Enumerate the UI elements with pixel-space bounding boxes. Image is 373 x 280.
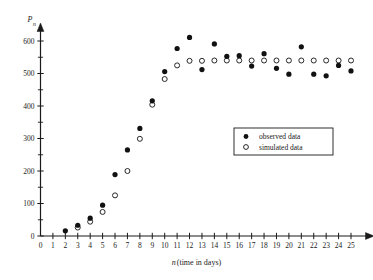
data-point-simulated <box>324 58 329 63</box>
data-point-simulated <box>199 58 204 63</box>
data-point-simulated <box>336 58 341 63</box>
data-point-observed <box>137 126 142 131</box>
data-point-observed <box>75 223 80 228</box>
x-tick-label: 25 <box>347 241 355 250</box>
x-tick-label: 6 <box>113 241 117 250</box>
x-tick-label: 17 <box>248 241 256 250</box>
x-tick-label: 9 <box>150 241 154 250</box>
x-axis-caption-variable: n <box>172 258 176 267</box>
chart-legend: observed datasimulated data <box>234 128 333 155</box>
y-tick-label: 400 <box>23 102 35 111</box>
y-axis-arrowhead <box>37 23 44 32</box>
y-tick-label: 300 <box>23 134 35 143</box>
y-tick-label: 200 <box>23 167 35 176</box>
x-tick-label: 18 <box>260 241 268 250</box>
data-point-observed <box>274 66 279 71</box>
x-axis-caption-text: (time in days) <box>177 258 222 267</box>
x-tick-label: 4 <box>88 241 92 250</box>
x-tick-label: 3 <box>76 241 80 250</box>
data-point-simulated <box>286 58 291 63</box>
data-point-simulated <box>274 58 279 63</box>
y-tick-label: 100 <box>23 199 35 208</box>
data-point-simulated <box>311 58 316 63</box>
data-point-simulated <box>237 58 242 63</box>
x-tick-label: 1 <box>51 241 55 250</box>
data-point-observed <box>224 54 229 59</box>
data-point-simulated <box>113 193 118 198</box>
x-tick-label: 24 <box>335 241 343 250</box>
y-tick-label: 0 <box>31 232 35 241</box>
data-point-observed <box>63 228 68 233</box>
data-point-simulated <box>125 169 130 174</box>
scatter-plot: 0100200300400500600Pn0123456789101112131… <box>0 0 373 280</box>
data-point-observed <box>175 46 180 51</box>
x-tick-label: 19 <box>273 241 281 250</box>
x-tick-label: 14 <box>211 241 219 250</box>
data-point-observed <box>237 53 242 58</box>
x-tick-label: 22 <box>310 241 318 250</box>
data-point-observed <box>100 203 105 208</box>
data-point-observed <box>249 63 254 68</box>
data-point-simulated <box>299 58 304 63</box>
data-point-simulated <box>249 58 254 63</box>
x-tick-label: 21 <box>298 241 306 250</box>
legend-label: observed data <box>259 132 301 141</box>
data-point-observed <box>336 63 341 68</box>
data-point-observed <box>212 41 217 46</box>
data-point-observed <box>187 35 192 40</box>
data-point-simulated <box>175 63 180 68</box>
data-point-observed <box>112 172 117 177</box>
data-point-observed <box>261 51 266 56</box>
data-point-observed <box>324 73 329 78</box>
legend-marker-simulated <box>244 145 249 150</box>
data-point-simulated <box>162 77 167 82</box>
x-tick-label: 7 <box>126 241 130 250</box>
y-tick-label: 600 <box>23 37 35 46</box>
x-tick-label: 13 <box>198 241 206 250</box>
data-point-observed <box>286 72 291 77</box>
data-point-observed <box>299 44 304 49</box>
x-tick-label: 8 <box>138 241 142 250</box>
x-tick-label: 16 <box>235 241 243 250</box>
x-tick-label: 11 <box>174 241 181 250</box>
legend-label: simulated data <box>259 143 303 152</box>
x-tick-label: 20 <box>285 241 293 250</box>
x-tick-label: 10 <box>161 241 169 250</box>
x-axis-arrowhead <box>366 233 373 240</box>
data-point-observed <box>348 68 353 73</box>
chart-figure: 0100200300400500600Pn0123456789101112131… <box>0 0 373 280</box>
x-tick-label: 5 <box>101 241 105 250</box>
y-tick-label: 500 <box>23 69 35 78</box>
data-point-simulated <box>262 58 267 63</box>
data-point-observed <box>199 67 204 72</box>
data-point-observed <box>150 98 155 103</box>
x-tick-label: 15 <box>223 241 231 250</box>
data-point-simulated <box>187 58 192 63</box>
x-tick-label: 23 <box>322 241 330 250</box>
data-point-simulated <box>100 209 105 214</box>
data-point-observed <box>88 216 93 221</box>
data-point-observed <box>162 69 167 74</box>
data-point-observed <box>311 72 316 77</box>
legend-marker-observed <box>244 134 249 139</box>
data-point-simulated <box>212 58 217 63</box>
data-point-simulated <box>137 136 142 141</box>
x-tick-label: 12 <box>186 241 194 250</box>
y-axis-title-subscript: n <box>33 21 36 27</box>
data-point-simulated <box>349 58 354 63</box>
x-tick-label: 2 <box>63 241 67 250</box>
y-axis-title: P <box>27 15 33 24</box>
data-point-observed <box>125 147 130 152</box>
x-tick-label: 0 <box>39 241 43 250</box>
